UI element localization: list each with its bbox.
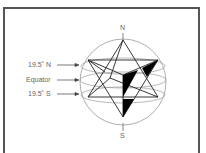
label-north-pole: N xyxy=(120,24,125,32)
label-equator: Equator xyxy=(26,76,51,84)
label-19-5-south: 19.5˚ S xyxy=(28,90,51,98)
label-19-5-north: 19.5˚ N xyxy=(28,61,51,69)
label-south-pole: S xyxy=(120,132,125,140)
label-arrows xyxy=(57,64,79,96)
